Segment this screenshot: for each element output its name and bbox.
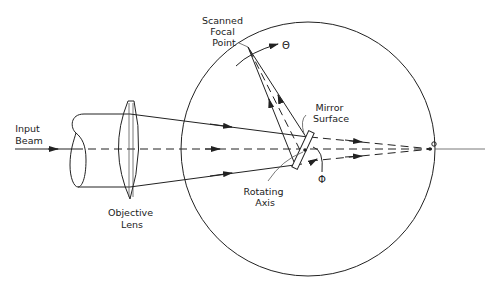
- phi-symbol: Φ: [318, 174, 326, 185]
- mirror-surface-label: Mirror Surface: [313, 102, 349, 124]
- mirror-surface-leader: [302, 115, 306, 134]
- theta-arrow: [236, 44, 278, 66]
- objective-lens-label: Objective Lens: [108, 207, 156, 230]
- optical-diagram: Θ Φ Input Beam Objective Lens Scanned Fo…: [0, 0, 495, 292]
- objective-lens: [118, 101, 138, 199]
- theta-symbol: Θ: [282, 40, 290, 51]
- focal-point-marker: [432, 142, 436, 146]
- rotating-axis-dot: [303, 148, 307, 152]
- input-beam-label: Input Beam: [15, 123, 43, 146]
- focal-point-dot: [428, 147, 432, 151]
- scanned-focal-leader: [239, 43, 248, 47]
- rotating-axis-label: Rotating Axis: [244, 186, 287, 208]
- phi-arrow: [313, 147, 322, 172]
- reflected-rays: [248, 47, 306, 162]
